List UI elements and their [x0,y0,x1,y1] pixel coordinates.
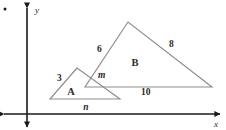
similar-triangles-diagram: y x 6 8 10 B 3 A n m [0,0,226,130]
corner-dot-marker [4,8,7,11]
side-label-8: 8 [169,39,174,49]
base-label-n: n [83,102,88,112]
x-axis-label: x [213,119,218,129]
y-axis-label: y [34,5,39,15]
side-label-6: 6 [97,44,102,54]
region-label-b: B [131,57,138,68]
region-label-a: A [67,86,75,97]
figure-container: y x 6 8 10 B 3 A n m [0,0,226,130]
base-label-10: 10 [141,87,151,97]
segment-label-m: m [98,70,105,80]
side-label-3: 3 [57,73,62,83]
